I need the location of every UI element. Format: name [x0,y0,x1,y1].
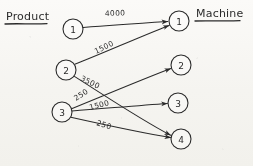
node-product-1-label: 1 [70,25,76,35]
node-machine-2-label: 2 [178,61,184,71]
node-product-3-label: 3 [59,108,65,118]
edge-p1-m1 [83,22,168,28]
edge-label-p2-m1: 1500 [93,39,115,56]
node-machine-4-label: 4 [178,135,184,145]
node-machine-1-label: 1 [176,17,182,27]
node-machine-3-label: 3 [175,99,181,109]
paper-sheet: Product Machine 1 2 3 1 2 [0,0,253,166]
edge-p3-m3 [72,103,167,111]
edge-p2-m1 [75,25,169,64]
edge-label-p3-m2: 250 [72,87,90,103]
heading-product: Product [6,10,50,23]
heading-machine: Machine [196,7,243,20]
node-product-2-label: 2 [63,66,69,76]
edge-label-p3-m4: 250 [95,118,112,131]
edge-label-p1-m1: 4000 [105,8,126,18]
network-diagram: Product Machine 1 2 3 1 2 [0,0,253,166]
